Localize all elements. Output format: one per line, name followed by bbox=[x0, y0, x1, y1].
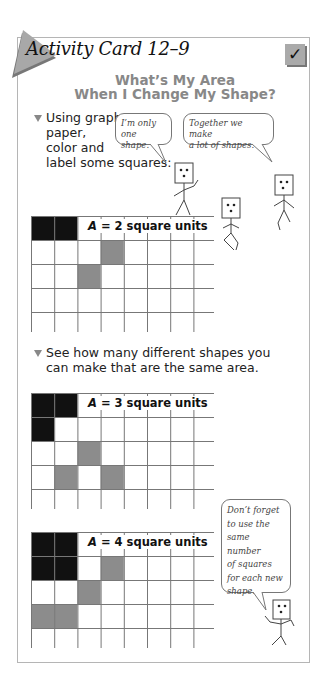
instruction-2: See how many different shapes you can ma… bbox=[46, 345, 270, 375]
area-label-2: A = 3 square units bbox=[88, 396, 208, 410]
area-variable: A bbox=[88, 535, 97, 549]
area-value: = 2 square units bbox=[97, 219, 208, 233]
instruction-line: can make that are the same area. bbox=[46, 360, 270, 375]
bullet-triangle-icon bbox=[34, 350, 42, 357]
graph-paper-grid-3 bbox=[31, 532, 216, 654]
area-value: = 4 square units bbox=[97, 535, 208, 549]
graph-paper-grid-1 bbox=[31, 216, 216, 338]
area-value: = 3 square units bbox=[97, 396, 208, 410]
instruction-line: See how many different shapes you bbox=[46, 345, 270, 360]
area-label-3: A = 4 square units bbox=[88, 535, 208, 549]
graph-paper-grid-2 bbox=[31, 393, 216, 515]
area-label-1: A = 2 square units bbox=[88, 219, 208, 233]
area-variable: A bbox=[88, 396, 97, 410]
area-variable: A bbox=[88, 219, 97, 233]
